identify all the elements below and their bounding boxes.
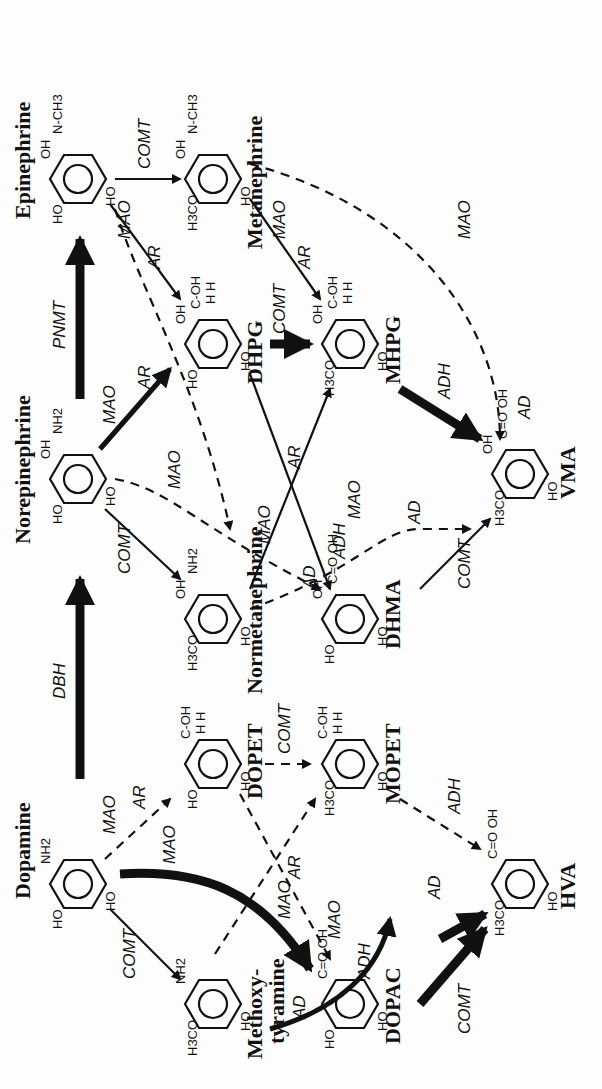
svg-text:HO: HO: [238, 627, 253, 647]
svg-text:OH: OH: [38, 440, 53, 460]
svg-text:HO: HO: [322, 1030, 337, 1050]
label-epinephrine: Epinephrine: [10, 101, 35, 219]
svg-text:NH2: NH2: [185, 548, 200, 574]
enzyme-comt-dopet: COMT: [275, 702, 294, 754]
enzyme-ar-da: AR: [130, 785, 149, 810]
enzyme-mao-nmn2: MAO: [345, 480, 364, 519]
enzyme-ar-3mt: AR: [285, 855, 304, 880]
svg-text:OH: OH: [173, 140, 188, 160]
enzyme-adh-mopet: ADH: [445, 777, 464, 815]
enzyme-ar-ne: AR: [135, 365, 154, 390]
label-dopamine: Dopamine: [10, 802, 35, 899]
atoms-methoxytyramine: H3CO HO NH2: [173, 958, 253, 1056]
svg-text:H3CO: H3CO: [185, 195, 200, 231]
label-methoxytyramine-2: tyramine: [264, 958, 289, 1044]
svg-text:HO: HO: [50, 505, 65, 525]
enzyme-ar-nmn: AR: [285, 445, 304, 470]
svg-text:HO: HO: [185, 370, 200, 390]
enzyme-comt-da: COMT: [120, 927, 139, 979]
enzyme-adh-dhpg: ADH: [330, 522, 349, 560]
svg-text:HO: HO: [103, 487, 118, 507]
atoms-metanephrine: H3CO HO OH N-CH3: [173, 94, 253, 231]
svg-text:HO: HO: [545, 482, 560, 502]
enzyme-comt-dhma: COMT: [455, 537, 474, 589]
svg-text:H3CO: H3CO: [322, 780, 337, 816]
svg-text:OH: OH: [38, 140, 53, 160]
atoms-dhpg: HO HO OH C-OH H H: [173, 276, 253, 389]
svg-text:C-OH: C-OH: [188, 276, 203, 309]
enzyme-mao-ne2: MAO: [165, 450, 184, 489]
svg-text:HO: HO: [545, 892, 560, 912]
arrow-nmn-vma: [250, 529, 470, 609]
label-mhpg: MHPG: [380, 316, 405, 384]
enzyme-mao-epi: MAO: [115, 200, 134, 239]
arrow-ne-dhma: [115, 479, 320, 589]
enzyme-mao-ne: MAO: [100, 385, 119, 424]
svg-text:H H: H H: [340, 282, 355, 304]
svg-text:HO: HO: [238, 772, 253, 792]
svg-text:HO: HO: [103, 892, 118, 912]
enzyme-comt-dopac: COMT: [455, 982, 474, 1034]
svg-text:HO: HO: [375, 772, 390, 792]
svg-text:C=O OH: C=O OH: [485, 809, 500, 859]
label-normetanephrine: Normetanephrine: [242, 526, 267, 694]
enzyme-mao-3mt2: MAO: [275, 880, 294, 919]
label-dopac: DOPAC: [380, 967, 405, 1044]
enzyme-pnmt: PNMT: [50, 299, 69, 349]
enzyme-ad-nmn: AD: [405, 500, 424, 525]
enzyme-ar-meta: AR: [295, 245, 314, 270]
svg-text:HO: HO: [238, 1012, 253, 1032]
svg-text:N-CH3: N-CH3: [50, 94, 65, 134]
label-norepinephrine: Norepinephrine: [10, 395, 35, 544]
svg-text:NH2: NH2: [173, 958, 188, 984]
enzyme-adh-dopet: ADH: [355, 942, 374, 980]
label-metanephrine: Metanephrine: [242, 116, 267, 249]
enzyme-mao-da: MAO: [160, 825, 179, 864]
svg-text:H3CO: H3CO: [492, 490, 507, 526]
svg-text:HO: HO: [185, 790, 200, 810]
svg-text:H3CO: H3CO: [185, 1020, 200, 1056]
svg-text:HO: HO: [375, 627, 390, 647]
enzyme-comt-dhpg: COMT: [270, 282, 289, 334]
enzyme-mao-meta2: MAO: [455, 200, 474, 239]
atoms-dhma: HO HO OH C=O OH: [310, 534, 390, 664]
svg-text:HO: HO: [375, 352, 390, 372]
enzyme-mao-3mt: MAO: [325, 900, 344, 939]
enzyme-ad-nmn2: AD: [300, 565, 319, 590]
enzyme-ad-3mt: AD: [425, 875, 444, 900]
label-mopet: MOPET: [380, 723, 405, 804]
ring-dhpg: [185, 320, 241, 368]
atoms-mopet: H3CO HO C-OH H H: [315, 706, 390, 816]
svg-text:OH: OH: [310, 305, 325, 325]
enzyme-comt-ne: COMT: [115, 522, 134, 574]
atoms-epinephrine: HO HO OH N-CH3: [38, 94, 118, 224]
ring-epinephrine: [50, 155, 106, 203]
svg-text:HO: HO: [375, 1012, 390, 1032]
svg-text:H H: H H: [330, 712, 345, 734]
enzyme-ad-meta: AD: [515, 395, 534, 420]
svg-text:HO: HO: [50, 205, 65, 225]
svg-text:HO: HO: [50, 910, 65, 930]
atoms-normetanephrine: H3CO HO OH NH2: [173, 548, 253, 671]
ring-dopamine: [50, 860, 106, 908]
ring-norepinephrine: [50, 455, 106, 503]
svg-text:C-OH: C-OH: [325, 276, 340, 309]
arrow-mopet-hva: [400, 799, 480, 849]
svg-text:H3CO: H3CO: [492, 900, 507, 936]
svg-text:HO: HO: [322, 645, 337, 665]
svg-text:OH: OH: [480, 435, 495, 455]
svg-text:NH2: NH2: [50, 408, 65, 434]
enzyme-mao-meta: MAO: [270, 200, 289, 239]
svg-text:H3CO: H3CO: [185, 635, 200, 671]
svg-text:C-OH: C-OH: [178, 706, 193, 739]
svg-text:HO: HO: [238, 352, 253, 372]
atoms-mhpg: H3CO HO OH C-OH H H: [310, 276, 390, 396]
svg-text:HO: HO: [238, 187, 253, 207]
svg-text:NH2: NH2: [38, 838, 53, 864]
svg-text:OH: OH: [173, 580, 188, 600]
enzyme-dbh: DBH: [50, 662, 69, 699]
svg-text:N-CH3: N-CH3: [185, 94, 200, 134]
ring-dhma: [322, 595, 378, 643]
arrow-dopac-hva: [420, 929, 485, 1004]
enzyme-ar-epi: AR: [145, 245, 164, 270]
